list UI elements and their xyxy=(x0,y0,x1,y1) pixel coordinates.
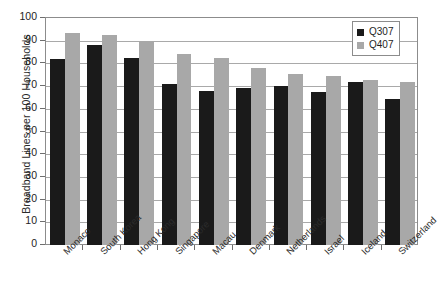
bar-q407 xyxy=(214,58,229,245)
y-axis-tick-label: 70 xyxy=(25,78,37,90)
y-axis-tick-label: 10 xyxy=(25,214,37,226)
bar-q307 xyxy=(274,86,289,245)
y-axis-tick-label: 30 xyxy=(25,169,37,181)
y-axis-tick-mark xyxy=(40,131,45,132)
bar-group xyxy=(199,18,229,245)
y-axis-tick-mark xyxy=(40,199,45,200)
y-axis-tick-label: 60 xyxy=(25,101,37,113)
bar-group xyxy=(274,18,304,245)
bar-group xyxy=(162,18,192,245)
bar-q407 xyxy=(400,82,415,245)
bar-q407 xyxy=(288,74,303,245)
y-axis: 1009080706050403020100 xyxy=(0,17,45,245)
legend-label-q307: Q307 xyxy=(369,27,393,37)
bar-group xyxy=(87,18,117,245)
legend-swatch-q407-icon xyxy=(357,42,364,49)
x-axis-labels: MonacoSouth KoreaHong KongSingaporeMacau… xyxy=(45,247,418,305)
y-axis-tick-label: 40 xyxy=(25,146,37,158)
bar-group xyxy=(311,18,341,245)
bar-q407 xyxy=(65,33,80,245)
y-axis-tick-mark xyxy=(40,85,45,86)
legend-item: Q307 xyxy=(357,26,393,38)
bar-q307 xyxy=(50,59,65,245)
y-axis-tick-mark xyxy=(40,221,45,222)
bar-q407 xyxy=(139,41,154,245)
y-axis-tick-label: 20 xyxy=(25,192,37,204)
y-axis-tick-label: 0 xyxy=(31,237,37,249)
y-axis-tick-mark xyxy=(40,176,45,177)
y-axis-tick-label: 100 xyxy=(19,10,37,22)
bar-q307 xyxy=(348,82,363,245)
legend: Q307 Q407 xyxy=(352,21,400,56)
bar-group xyxy=(50,18,80,245)
bar-q407 xyxy=(363,80,378,245)
y-axis-tick-label: 80 xyxy=(25,55,37,67)
bar-q407 xyxy=(251,68,266,245)
bar-q407 xyxy=(102,35,117,245)
bar-group xyxy=(124,18,154,245)
y-axis-tick-mark xyxy=(40,153,45,154)
y-axis-tick-mark xyxy=(40,17,45,18)
legend-label-q407: Q407 xyxy=(369,40,393,50)
bar-q307 xyxy=(385,99,400,245)
legend-item: Q407 xyxy=(357,39,393,51)
y-axis-tick-label: 50 xyxy=(25,124,37,136)
legend-swatch-q307-icon xyxy=(357,29,364,36)
bar-q407 xyxy=(177,54,192,245)
bar-q307 xyxy=(87,45,102,245)
bar-group xyxy=(236,18,266,245)
y-axis-tick-mark xyxy=(40,40,45,41)
y-axis-tick-mark xyxy=(40,62,45,63)
y-axis-tick-mark xyxy=(40,108,45,109)
y-axis-tick-label: 90 xyxy=(25,33,37,45)
bar-q307 xyxy=(236,88,251,245)
